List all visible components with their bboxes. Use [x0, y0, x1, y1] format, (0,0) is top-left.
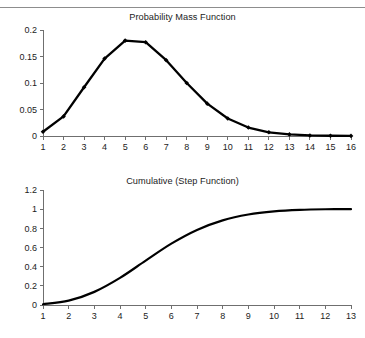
pmf-x-tick-label: 16 — [346, 142, 356, 152]
cdf-y-tick-label: 1 — [32, 204, 37, 214]
pmf-data-marker — [349, 134, 354, 139]
cdf-x-tick-label: 1 — [40, 311, 45, 321]
cdf-x-tick-label: 11 — [295, 311, 304, 321]
pmf-x-tick-label: 1 — [40, 142, 45, 152]
cdf-x-tick-label: 7 — [194, 311, 199, 321]
cdf-y-tick-label: 0.6 — [24, 243, 37, 253]
cdf-panel: Cumulative (Step Function) 00.20.40.60.8… — [0, 170, 365, 338]
pmf-y-tick-label: 0.15 — [19, 52, 37, 62]
pmf-plot: 00.050.10.150.212345678910111213141516 — [0, 8, 365, 163]
cdf-x-tick-label: 12 — [320, 311, 330, 321]
pmf-y-tick-label: 0.05 — [19, 105, 37, 115]
pmf-x-tick-label: 4 — [102, 142, 107, 152]
cdf-y-tick-label: 0.2 — [24, 281, 37, 291]
pmf-x-tick-label: 2 — [61, 142, 66, 152]
cdf-x-tick-label: 2 — [66, 311, 71, 321]
pmf-data-marker — [267, 130, 272, 135]
cdf-y-tick-label: 0 — [32, 300, 37, 310]
cdf-y-tick-label: 1.2 — [24, 185, 37, 195]
pmf-x-tick-label: 11 — [244, 142, 253, 152]
cdf-x-tick-label: 8 — [220, 311, 225, 321]
pmf-x-tick-label: 3 — [82, 142, 87, 152]
cdf-x-tick-label: 13 — [346, 311, 356, 321]
pmf-y-tick-label: 0.1 — [24, 78, 37, 88]
pmf-x-tick-label: 8 — [184, 142, 189, 152]
pmf-data-line — [43, 41, 351, 136]
cdf-plot: 00.20.40.60.811.212345678910111213 — [0, 170, 365, 338]
pmf-x-tick-label: 13 — [284, 142, 294, 152]
figure-page: Probability Mass Function 00.050.10.150.… — [0, 0, 365, 338]
cdf-x-tick-label: 6 — [169, 311, 174, 321]
cdf-x-tick-label: 10 — [269, 311, 279, 321]
cdf-y-tick-label: 0.8 — [24, 224, 37, 234]
pmf-x-tick-label: 5 — [123, 142, 128, 152]
pmf-y-tick-label: 0.2 — [24, 25, 37, 35]
pmf-x-tick-label: 6 — [143, 142, 148, 152]
pmf-data-marker — [308, 133, 313, 138]
cdf-data-line — [43, 209, 351, 304]
pmf-x-tick-label: 9 — [205, 142, 210, 152]
cdf-x-tick-label: 4 — [117, 311, 122, 321]
cropped-text-remnant — [0, 0, 365, 6]
pmf-x-tick-label: 15 — [325, 142, 335, 152]
pmf-data-marker — [328, 133, 333, 138]
cdf-y-tick-label: 0.4 — [24, 262, 37, 272]
cdf-x-tick-label: 3 — [92, 311, 97, 321]
pmf-panel: Probability Mass Function 00.050.10.150.… — [0, 8, 365, 163]
pmf-x-tick-label: 7 — [164, 142, 169, 152]
cdf-x-tick-label: 9 — [246, 311, 251, 321]
cdf-x-tick-label: 5 — [143, 311, 148, 321]
pmf-x-tick-label: 14 — [305, 142, 315, 152]
pmf-x-tick-label: 12 — [264, 142, 274, 152]
pmf-y-tick-label: 0 — [32, 131, 37, 141]
pmf-x-tick-label: 10 — [223, 142, 233, 152]
